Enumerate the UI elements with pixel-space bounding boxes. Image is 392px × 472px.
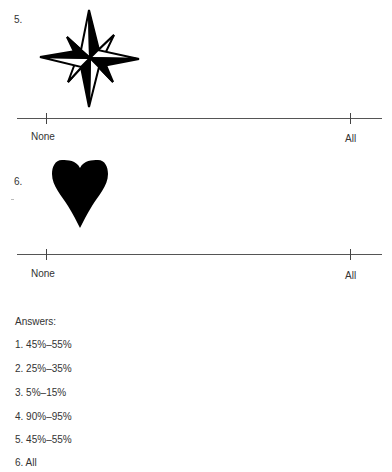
answer-item: 2. 25%–35% — [15, 363, 72, 374]
answers-title: Answers: — [15, 316, 56, 327]
compass-rose-star-icon — [36, 6, 144, 112]
scale-tick-all — [350, 249, 351, 260]
answer-item: 5. 45%–55% — [15, 434, 72, 445]
scale-tick-all — [350, 113, 351, 124]
question-number: 6. — [14, 176, 22, 187]
question-number: 5. — [14, 14, 22, 25]
scale-line[interactable] — [17, 254, 382, 255]
answer-item: 4. 90%–95% — [15, 411, 72, 422]
answer-item: 1. 45%–55% — [15, 339, 72, 350]
scale-label-none: None — [31, 131, 55, 142]
scale-label-none: None — [31, 268, 55, 279]
scale-line[interactable] — [17, 118, 382, 119]
heart-icon — [50, 158, 110, 230]
stray-mark — [11, 199, 14, 200]
scale-label-all: All — [345, 270, 356, 281]
answer-item: 6. All — [15, 457, 37, 468]
scale-label-all: All — [345, 133, 356, 144]
scale-tick-none — [46, 249, 47, 260]
scale-tick-none — [46, 113, 47, 124]
answer-item: 3. 5%–15% — [15, 387, 66, 398]
